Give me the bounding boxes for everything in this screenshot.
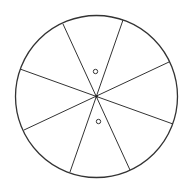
marker-circle-2 [96,119,100,123]
divided-circle-diagram [0,0,189,187]
marker-circle-1 [93,69,97,73]
center-point [95,95,98,98]
